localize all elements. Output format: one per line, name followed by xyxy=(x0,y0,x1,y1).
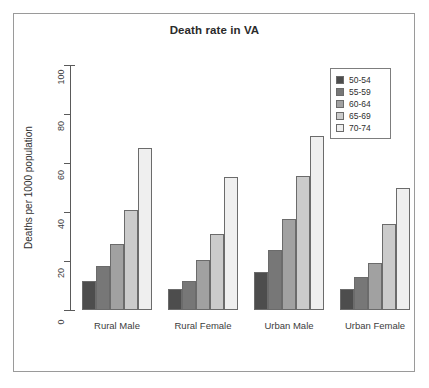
bar xyxy=(354,277,368,310)
bar xyxy=(368,263,382,310)
bar xyxy=(282,219,296,310)
y-axis-tick-label: 40 xyxy=(33,206,61,218)
bar-group xyxy=(168,65,238,310)
legend-item-label: 50-54 xyxy=(349,75,371,85)
x-axis-group-label: Urban Female xyxy=(320,320,429,331)
bar xyxy=(254,272,268,310)
y-axis-line xyxy=(70,65,71,310)
y-axis-title: Deaths per 1000 population xyxy=(23,108,34,268)
y-axis-tick-label-text: 20 xyxy=(56,260,66,286)
bar xyxy=(340,289,354,310)
legend-swatch-icon xyxy=(336,100,344,108)
legend-item-label: 60-64 xyxy=(349,99,371,109)
legend-item: 50-54 xyxy=(336,74,385,85)
legend-item: 60-64 xyxy=(336,98,385,109)
legend-swatch-icon xyxy=(336,124,344,132)
bar xyxy=(210,234,224,310)
legend-swatch-icon xyxy=(336,88,344,96)
legend-item: 70-74 xyxy=(336,122,385,133)
bar xyxy=(296,176,310,310)
legend-item-label: 55-59 xyxy=(349,87,371,97)
bar-group xyxy=(254,65,324,310)
y-axis-tick-label: 0 xyxy=(33,304,61,316)
bar xyxy=(224,177,238,310)
bar xyxy=(138,148,152,310)
bar xyxy=(96,266,110,310)
legend-item-label: 65-69 xyxy=(349,111,371,121)
legend-swatch-icon xyxy=(336,112,344,120)
chart-screenshot: Death rate in VA 020406080100 Deaths per… xyxy=(0,0,429,388)
y-axis-tick-label: 60 xyxy=(33,157,61,169)
y-axis-tick-label: 100 xyxy=(33,59,61,71)
bar xyxy=(110,244,124,310)
y-axis-serif-bottom xyxy=(70,310,75,311)
bar xyxy=(196,260,210,310)
y-axis-tick-label-text: 80 xyxy=(56,113,66,139)
y-axis-serif-top xyxy=(70,65,75,66)
y-axis-tick-label-text: 60 xyxy=(56,162,66,188)
bar xyxy=(310,136,324,310)
bar xyxy=(396,188,410,311)
legend: 50-5455-5960-6465-6970-74 xyxy=(330,68,391,139)
bar xyxy=(124,210,138,310)
bar xyxy=(382,224,396,310)
y-axis-tick-label-text: 100 xyxy=(56,64,66,90)
legend-item-label: 70-74 xyxy=(349,123,371,133)
y-axis-tick-label: 20 xyxy=(33,255,61,267)
legend-swatch-icon xyxy=(336,76,344,84)
bar xyxy=(168,289,182,310)
y-axis-tick-label-text: 40 xyxy=(56,211,66,237)
plot-area: 020406080100 Deaths per 1000 population … xyxy=(0,0,429,388)
y-axis-tick-label: 80 xyxy=(33,108,61,120)
bar-group xyxy=(82,65,152,310)
bar xyxy=(82,281,96,310)
bar xyxy=(268,250,282,310)
legend-item: 65-69 xyxy=(336,110,385,121)
legend-item: 55-59 xyxy=(336,86,385,97)
bar xyxy=(182,281,196,310)
